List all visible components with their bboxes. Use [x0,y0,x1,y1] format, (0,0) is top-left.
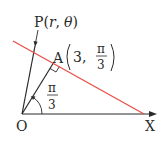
angle-num: π [48,81,56,95]
point-a-label: A [52,50,64,66]
point-a-angle-den: 3 [97,58,105,72]
point-a-radius: 3 [73,49,82,65]
p-pointer [36,30,39,43]
polar-diagram: P(r,θ) A 3 , π 3 π 3 O X [0,0,164,154]
a-close-paren [111,44,114,71]
point-a-comma: , [82,49,86,65]
p-pointer-arrowhead-icon [34,41,38,47]
axis-arrowhead-icon [149,111,157,117]
point-a-angle-num: π [97,42,105,56]
angle-den: 3 [48,98,56,112]
axis-label: X [145,118,155,134]
a-open-paren [67,44,70,70]
origin-label: O [16,118,27,134]
point-p-label: P(r,θ) [34,14,78,30]
